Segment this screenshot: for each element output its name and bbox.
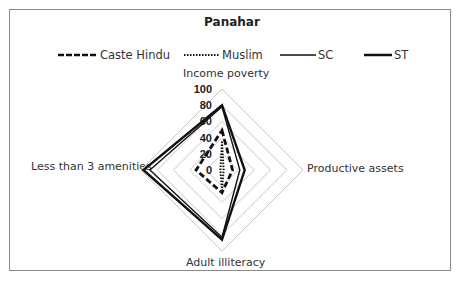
grid-ring [157, 105, 287, 235]
tick-label: 40 [200, 132, 212, 144]
grid-ring [141, 89, 303, 251]
radar-chart: 020406080100 [0, 0, 464, 288]
tick-label: 100 [194, 83, 212, 95]
tick-label: 0 [206, 164, 212, 176]
series-muslim [220, 142, 223, 191]
tick-label: 80 [200, 99, 212, 111]
series-st [143, 105, 244, 239]
